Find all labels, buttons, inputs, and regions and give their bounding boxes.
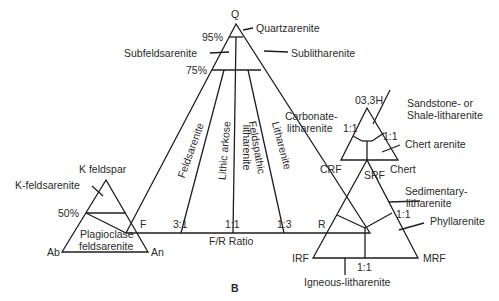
label-f: F — [140, 219, 146, 230]
label-subfeldsarenite: Subfeldsarenite — [124, 48, 197, 59]
label-r: R — [318, 219, 326, 230]
label-50pct: 50% — [58, 208, 79, 219]
label-litharenite-sub: litharenite — [241, 125, 252, 171]
label-quartzarenite: Quartzarenite — [256, 23, 320, 34]
label-sedimentary-litharenite: litharenite — [406, 198, 452, 209]
panel-label: B — [231, 283, 239, 294]
label-ratio-1-3: 1:3 — [277, 219, 292, 230]
sandstone-classification-diagram: Q 95% 75% Quartzarenite Subfeldsarenite … — [0, 0, 499, 301]
label-ratio-srf-mrf: 1:1 — [396, 209, 411, 220]
label-crf: CRF — [320, 164, 342, 175]
label-srf: SRF — [364, 170, 385, 181]
label-plagioclase: Plagioclase — [80, 229, 134, 240]
label-carbonate: Carbonate- — [285, 111, 338, 122]
label-75pct: 75% — [186, 65, 207, 76]
label-k-feldsarenite: K-feldsarenite — [15, 180, 80, 191]
label-k-feldspar: K feldspar — [79, 164, 126, 175]
label-ratio-1-1: 1:1 — [225, 219, 240, 230]
label-ab: Ab — [47, 247, 60, 258]
label-95pct: 95% — [202, 32, 223, 43]
label-phyllarenite: Phyllarenite — [430, 216, 485, 227]
label-chert-arenite: Chert arenite — [405, 139, 466, 150]
label-sublitharenite: Sublitharenite — [291, 48, 355, 59]
label-ratio-left: 1:1 — [343, 123, 358, 134]
label-ratio-3-1: 3:1 — [173, 219, 188, 230]
label-shale-litharenite: Shale-litharenite — [407, 110, 483, 121]
label-carbonate-litharenite: litharenite — [287, 123, 333, 134]
line-center — [233, 37, 236, 233]
label-sandstone: Sandstone- or — [407, 98, 473, 109]
label-chert: Chert — [390, 164, 416, 175]
label-ratio-irf-mrf: 1:1 — [357, 262, 372, 273]
label-ratio-right: 1:1 — [383, 131, 398, 142]
label-sedimentary: Sedimentary- — [405, 186, 467, 197]
label-03-3h: 03,3H — [355, 95, 383, 106]
label-igneous-litharenite: Igneous-litharenite — [304, 277, 390, 288]
label-mrf: MRF — [423, 253, 446, 264]
label-fr-ratio: F/R Ratio — [209, 236, 253, 247]
label-feldsarenite-sub: feldsarenite — [79, 241, 133, 252]
label-irf: IRF — [292, 253, 309, 264]
label-q: Q — [231, 9, 239, 20]
label-an: An — [151, 247, 164, 258]
